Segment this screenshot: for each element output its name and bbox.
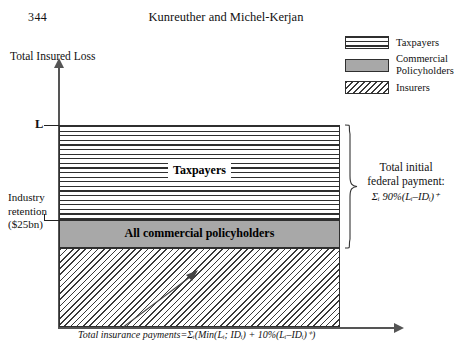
legend-label-taxpayers: Taxpayers <box>396 37 439 49</box>
band-label-commercial-text: All commercial policyholders <box>125 226 275 240</box>
legend-item-insurers: Insurers <box>345 81 450 94</box>
x-axis-arrow-icon <box>394 323 404 333</box>
industry-retention-callout: Industry retention ($25bn) <box>8 191 66 232</box>
industry-retention-leader-line <box>44 220 60 221</box>
federal-payment-brace-icon <box>344 124 358 249</box>
band-label-taxpayers: Taxpayers <box>59 163 340 178</box>
federal-payment-line-2: federal payment: <box>362 174 450 188</box>
y-tick-label-L: L <box>35 117 43 132</box>
industry-retention-leader-tick <box>44 214 45 221</box>
band-label-taxpayers-text: Taxpayers <box>168 162 231 178</box>
industry-retention-line-1: Industry <box>8 191 66 205</box>
insurance-payments-formula: Total insurance payments=Σᵢ(Min(Lᵢ; IDᵢ)… <box>78 329 315 340</box>
legend-label-commercial: Commercial Policyholders <box>396 53 454 77</box>
federal-payment-formula: Σᵢ 90%(Lᵢ–IDᵢ)⁺ <box>362 190 450 204</box>
legend-swatch-commercial-icon <box>345 59 389 72</box>
y-tick-mark-L <box>44 125 60 126</box>
legend-swatch-insurers-icon <box>345 81 389 94</box>
band-label-commercial: All commercial policyholders <box>59 226 340 241</box>
legend-label-insurers: Insurers <box>396 82 430 94</box>
legend-item-commercial: Commercial Policyholders <box>345 53 450 77</box>
legend-item-taxpayers: Taxpayers <box>345 36 450 49</box>
insurance-payments-leader-arrow-icon <box>118 268 202 330</box>
running-head: Kunreuther and Michel-Kerjan <box>0 10 452 25</box>
legend-swatch-taxpayers-icon <box>345 36 389 49</box>
industry-retention-line-2: retention <box>8 205 66 219</box>
legend: Taxpayers Commercial Policyholders Insur… <box>345 36 450 98</box>
federal-payment-annotation: Total initial federal payment: Σᵢ 90%(Lᵢ… <box>362 160 450 204</box>
federal-payment-line-1: Total initial <box>362 160 450 174</box>
